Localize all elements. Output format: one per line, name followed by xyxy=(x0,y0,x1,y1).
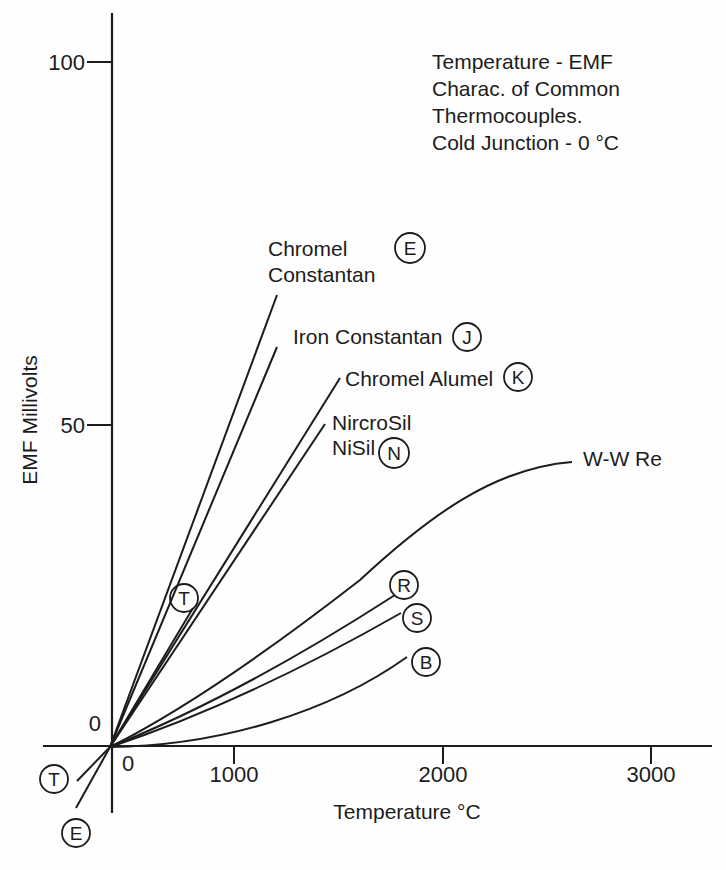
badge-e-negative: E xyxy=(62,819,90,847)
label-chromel: Chromel xyxy=(268,237,347,260)
y-tick-label-50: 50 xyxy=(61,413,85,438)
chart-title-line-2: Charac. of Common xyxy=(432,77,620,100)
y-tick-label-100: 100 xyxy=(48,50,85,75)
thermocouple-emf-chart: 100 50 0 0 1000 2000 3000 EMF Millivolts… xyxy=(0,0,726,870)
badge-r: R xyxy=(390,571,418,599)
badge-e-letter: E xyxy=(404,238,417,259)
x-tick-label-0: 0 xyxy=(122,751,134,776)
badge-r-letter: R xyxy=(397,575,411,596)
y-axis-title: EMF Millivolts xyxy=(18,355,41,485)
badge-t-mid: T xyxy=(170,584,198,612)
chart-title-line-1: Temperature - EMF xyxy=(432,50,613,73)
x-tick-label-1000: 1000 xyxy=(210,762,259,787)
label-chromel-alumel: Chromel Alumel xyxy=(345,367,493,390)
x-tick-label-2000: 2000 xyxy=(419,762,468,787)
badge-t-mid-letter: T xyxy=(178,588,190,609)
label-constantan: Constantan xyxy=(268,263,375,286)
badge-k-letter: K xyxy=(512,367,525,388)
badge-j-letter: J xyxy=(462,327,472,348)
chart-canvas: 100 50 0 0 1000 2000 3000 EMF Millivolts… xyxy=(0,0,726,870)
chart-title-line-3: Thermocouples. xyxy=(432,104,583,127)
chart-title-line-4: Cold Junction - 0 °C xyxy=(432,131,619,154)
badge-e-negative-letter: E xyxy=(70,823,83,844)
badge-b: B xyxy=(412,648,440,676)
label-iron-constantan: Iron Constantan xyxy=(293,325,442,348)
y-tick-label-0: 0 xyxy=(89,711,101,736)
badge-n: N xyxy=(379,438,409,468)
label-nicrosil: NircroSil xyxy=(332,411,411,434)
curve-e-chromel-constantan xyxy=(76,295,277,808)
x-axis-title: Temperature °C xyxy=(333,800,480,823)
x-tick-label-3000: 3000 xyxy=(627,762,676,787)
badge-t-negative-letter: T xyxy=(48,769,60,790)
curve-j-iron-constantan xyxy=(110,347,277,747)
badge-j: J xyxy=(453,323,481,351)
label-nisil: NiSil xyxy=(332,436,375,459)
badge-k: K xyxy=(504,363,532,391)
badge-s: S xyxy=(403,604,431,632)
badge-b-letter: B xyxy=(420,652,433,673)
curve-t xyxy=(77,608,193,781)
badge-t-negative: T xyxy=(40,765,68,793)
badge-e: E xyxy=(395,233,425,263)
badge-s-letter: S xyxy=(411,608,424,629)
badge-n-letter: N xyxy=(387,443,401,464)
label-w-w-re: W-W Re xyxy=(583,447,662,470)
